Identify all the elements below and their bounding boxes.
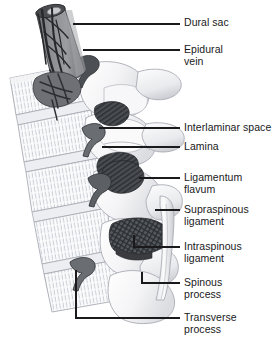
label-transverse-process-line-1: Transverse [184, 311, 237, 323]
anatomy-figure: Dural sac Epiduralvein Interlaminar spac… [0, 0, 277, 344]
label-spinous-process: Spinousprocess [184, 276, 222, 300]
label-interlaminar-space: Interlaminar space [184, 121, 271, 133]
label-transverse-process: Transverseprocess [184, 311, 237, 335]
label-supraspinous-ligament-line-1: Supraspinous [184, 203, 249, 215]
label-ligamentum-flavum-line-1: Ligamentum [184, 171, 242, 183]
label-lamina: Lamina [184, 140, 219, 152]
label-intraspinous-ligament-line-2: ligament [184, 252, 224, 264]
label-epidural-vein: Epiduralvein [184, 43, 223, 67]
label-ligamentum-flavum: Ligamentumflavum [184, 171, 242, 195]
label-intraspinous-ligament-line-1: Intraspinous [184, 240, 242, 252]
label-intraspinous-ligament: Intraspinousligament [184, 240, 242, 264]
label-transverse-process-line-2: process [184, 323, 221, 335]
label-spinous-process-line-1: Spinous [184, 276, 222, 288]
label-dural-sac: Dural sac [184, 16, 229, 28]
label-ligamentum-flavum-line-2: flavum [184, 183, 215, 195]
label-epidural-vein-line-1: Epidural [184, 43, 223, 55]
label-supraspinous-ligament: Supraspinousligament [184, 203, 249, 227]
label-spinous-process-line-2: process [184, 288, 221, 300]
label-supraspinous-ligament-line-2: ligament [184, 215, 224, 227]
label-epidural-vein-line-2: vein [184, 55, 203, 67]
spinous-process [136, 69, 181, 100]
